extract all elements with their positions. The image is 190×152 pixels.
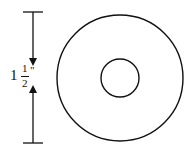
dimension-denominator: 2 bbox=[22, 77, 28, 89]
dimension-whole: 1 bbox=[10, 67, 18, 84]
inner-circle bbox=[101, 59, 139, 97]
dimension-numerator: 1 bbox=[22, 62, 28, 74]
up-arrowhead bbox=[29, 85, 37, 93]
outer-circle bbox=[57, 15, 183, 141]
dimension-unit: " bbox=[30, 64, 35, 76]
